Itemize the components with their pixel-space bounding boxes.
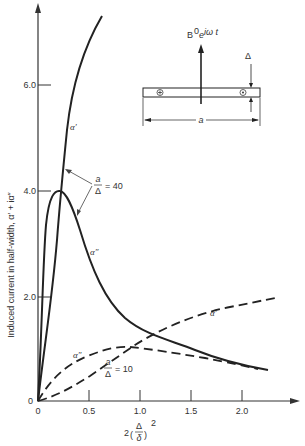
annotation-ratio-10: a Δ = 10 [104, 357, 133, 379]
x-tick-label-1.5: 1.5 [185, 406, 198, 416]
y-tick-label-0: 0 [28, 396, 33, 406]
x-axis-arrow-icon [290, 398, 300, 404]
x-label-denominator: δ [136, 433, 142, 443]
chart: 0 2.0 4.0 6.0 0 0.5 1.0 1.5 2.0 2 ( Δ δ … [0, 0, 305, 446]
ratio40-value: = 40 [105, 181, 123, 191]
inset-diagram: B 0 e iω t Δ a [143, 26, 260, 126]
x-label-exponent: 2 [151, 418, 156, 428]
y-tick-label-6: 6.0 [23, 80, 36, 90]
x-axis [37, 398, 300, 404]
y-axis-label: Induced current in half-width, α′ + iα″ [6, 191, 16, 337]
x-tick-label-2.0: 2.0 [236, 406, 249, 416]
series-alpha-dprime-40 [38, 191, 268, 401]
field-label-exp-sup: iω t [204, 27, 219, 37]
y-tick-label-2: 2.0 [23, 292, 36, 302]
ratio10-denominator: Δ [105, 369, 111, 379]
ratio40-denominator: Δ [95, 186, 101, 196]
x-label-numerator: Δ [136, 421, 142, 431]
x-label-prefix: 2 [124, 428, 129, 438]
series-alpha-dprime-10 [38, 347, 258, 401]
label-alpha-dprime-10: α″ [73, 350, 82, 360]
ratio40-numerator: a [95, 174, 100, 184]
label-alpha-dprime-40: α″ [90, 247, 99, 257]
x-label-paren-left: ( [130, 430, 133, 440]
annotation-ratio-40: a Δ = 40 [65, 169, 123, 216]
x-axis-label: 2 ( Δ δ ) 2 [124, 418, 156, 443]
x-tick-label-0: 0 [35, 406, 40, 416]
y-tick-label-4: 4.0 [23, 186, 36, 196]
x-tick-label-0.5: 0.5 [83, 406, 96, 416]
y-axis-arrow-icon [35, 3, 41, 13]
x-ticks [89, 390, 242, 401]
field-arrow-icon [198, 44, 204, 53]
x-label-paren-right: ) [144, 430, 147, 440]
ratio10-numerator: a [105, 357, 110, 367]
inset-delta-label: Δ [245, 51, 251, 61]
field-label-B: B [187, 30, 193, 40]
inset-a-label: a [198, 115, 203, 125]
ratio10-value: = 10 [115, 364, 133, 374]
x-tick-label-1.0: 1.0 [134, 406, 147, 416]
label-alpha-prime-40: α′ [70, 122, 78, 132]
label-alpha-prime-10: α′ [210, 308, 218, 318]
